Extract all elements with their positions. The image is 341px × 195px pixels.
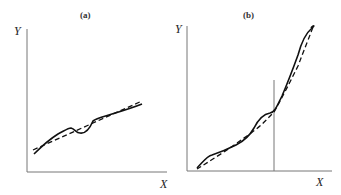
panel-b-y-label: Y	[175, 22, 183, 36]
panel-b-x-label: X	[315, 175, 324, 189]
panel-a-x-label: X	[159, 177, 168, 191]
panel-b-title: (b)	[243, 10, 254, 20]
panel-b: (b) Y X	[175, 10, 332, 189]
panel-a-y-label: Y	[14, 24, 22, 38]
unused	[34, 104, 146, 153]
panel-a-title: (a)	[80, 10, 91, 20]
panel-a: (a) Y X	[14, 10, 168, 191]
panel-a-solid-curve	[34, 104, 142, 154]
panel-b-solid-curve	[197, 26, 314, 168]
panel-b-dashed-curve	[197, 27, 313, 169]
figure: (a) Y X (b) Y X	[0, 0, 341, 195]
panel-a-dashed-line	[33, 101, 142, 150]
